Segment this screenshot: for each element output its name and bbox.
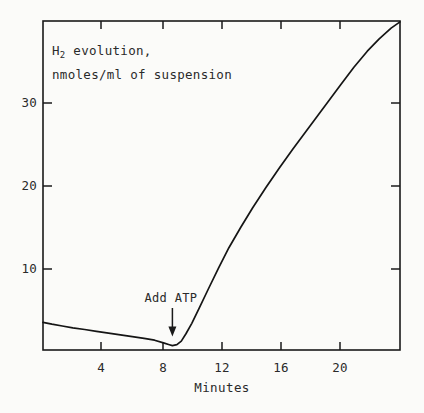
y-tick-label-10: 10 (22, 261, 37, 276)
y-tick-label-20: 20 (22, 178, 37, 193)
x-tick-label-16: 16 (273, 360, 288, 375)
plot-title-h: H (52, 43, 60, 58)
x-axis-title: Minutes (194, 380, 249, 395)
y-axis-ticks-right (391, 103, 400, 269)
x-axis-ticks-bottom (101, 342, 340, 350)
add-atp-annotation-label: Add ATP (145, 291, 198, 305)
add-atp-arrow-head (168, 327, 176, 337)
plot-title-line2: nmoles/ml of suspension (52, 67, 232, 82)
x-tick-label-8: 8 (159, 360, 167, 375)
chart-figure: 10 20 30 4 8 12 16 20 Minutes H2 evoluti… (0, 0, 424, 413)
x-axis-ticks-top (101, 21, 340, 29)
y-tick-label-30: 30 (22, 95, 37, 110)
x-tick-label-4: 4 (97, 360, 105, 375)
plot-title-line1: H2 evolution, (52, 43, 152, 60)
y-axis-ticks-left (43, 103, 52, 269)
plot-title-rest: evolution, (66, 43, 152, 58)
x-tick-label-12: 12 (214, 360, 229, 375)
x-tick-label-20: 20 (332, 360, 347, 375)
chart-canvas: 10 20 30 4 8 12 16 20 Minutes H2 evoluti… (0, 0, 424, 413)
